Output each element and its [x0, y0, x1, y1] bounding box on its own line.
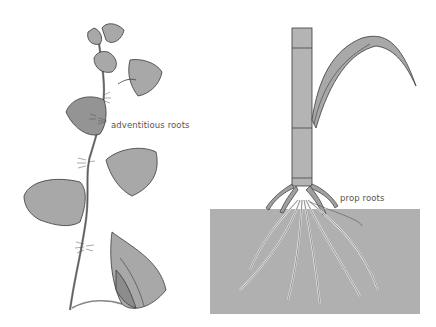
prop-roots-label: prop roots — [340, 193, 384, 203]
vine-plant — [24, 24, 166, 310]
adventitious-roots-label: adventitious roots — [111, 120, 190, 130]
corn-plant — [210, 28, 420, 314]
illustration — [0, 0, 436, 327]
